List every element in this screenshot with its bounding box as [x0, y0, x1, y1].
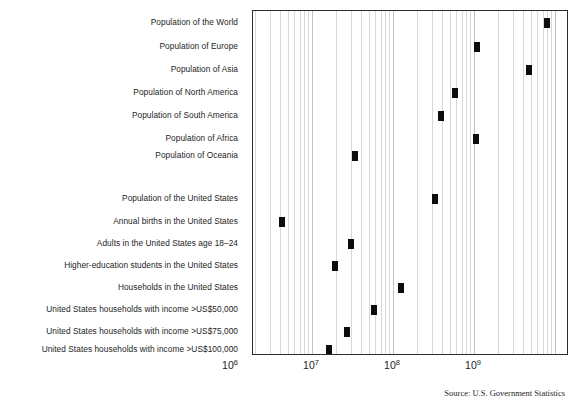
gridline-minor [432, 11, 433, 354]
data-point-marker [344, 327, 350, 337]
gridline-minor [389, 11, 390, 354]
x-tick-base: 10 [303, 359, 315, 371]
gridline-minor [450, 11, 451, 354]
x-tick-exponent: 7 [315, 358, 319, 367]
plot-area [252, 10, 568, 355]
log-scatter-chart: Population of the WorldPopulation of Eur… [0, 0, 571, 409]
gridline-minor [255, 11, 256, 354]
category-label-column: Population of the WorldPopulation of Eur… [0, 0, 244, 360]
category-label: United States households with income >US… [46, 326, 238, 336]
data-point-marker [371, 305, 377, 315]
gridline-minor [442, 11, 443, 354]
category-label: Population of the World [151, 17, 238, 27]
gridline-minor [498, 11, 499, 354]
x-tick-base: 10 [465, 359, 477, 371]
gridline-minor [470, 11, 471, 354]
x-tick-exponent: 6 [234, 358, 238, 367]
gridline-major [555, 11, 556, 354]
x-axis-tick-label: 109 [465, 359, 481, 371]
gridline-major [474, 11, 475, 354]
x-axis-tick-label: 108 [384, 359, 400, 371]
data-point-marker [526, 65, 532, 75]
gridline-minor [462, 11, 463, 354]
category-label: Population of the United States [122, 193, 238, 203]
gridline-minor [381, 11, 382, 354]
gridline-minor [369, 11, 370, 354]
data-point-marker [473, 134, 479, 144]
gridline-minor [523, 11, 524, 354]
x-tick-base: 10 [222, 359, 234, 371]
data-point-marker [348, 239, 354, 249]
gridline-minor [351, 11, 352, 354]
category-label: Households in the United States [118, 282, 238, 292]
data-point-marker [452, 88, 458, 98]
gridline-minor [417, 11, 418, 354]
category-label: Population of North America [133, 87, 238, 97]
x-tick-exponent: 9 [477, 358, 481, 367]
data-point-marker [352, 151, 358, 161]
data-point-marker [438, 111, 444, 121]
gridline-minor [385, 11, 386, 354]
data-point-marker [544, 18, 550, 28]
gridline-minor [456, 11, 457, 354]
gridline-minor [304, 11, 305, 354]
gridline-major [393, 11, 394, 354]
x-axis-tick-label: 106 [222, 359, 238, 371]
x-axis: 106107108109 [252, 356, 568, 378]
gridline-minor [280, 11, 281, 354]
gridline-minor [513, 11, 514, 354]
gridline-minor [531, 11, 532, 354]
x-axis-tick-label: 107 [303, 359, 319, 371]
gridline-minor [336, 11, 337, 354]
gridline-minor [308, 11, 309, 354]
category-label: Adults in the United States age 18–24 [97, 238, 238, 248]
gridline-minor [270, 11, 271, 354]
category-label: Population of Oceania [155, 150, 238, 160]
data-point-marker [474, 42, 480, 52]
category-label: Population of South America [132, 110, 238, 120]
category-label: United States households with income >US… [46, 304, 238, 314]
data-point-marker [398, 283, 404, 293]
category-label: Higher-education students in the United … [64, 260, 238, 270]
gridline-minor [288, 11, 289, 354]
category-label: Population of Europe [160, 41, 239, 51]
category-label: Population of Africa [166, 133, 239, 143]
gridline-minor [361, 11, 362, 354]
data-point-marker [326, 345, 332, 355]
category-label: Population of Asia [171, 64, 238, 74]
gridline-minor [551, 11, 552, 354]
gridline-minor [543, 11, 544, 354]
category-label: Annual births in the United States [113, 216, 238, 226]
gridline-minor [375, 11, 376, 354]
source-note: Source: U.S. Government Statistics [444, 388, 565, 398]
x-tick-exponent: 8 [396, 358, 400, 367]
data-point-marker [332, 261, 338, 271]
gridline-minor [300, 11, 301, 354]
gridline-major [312, 11, 313, 354]
x-tick-base: 10 [384, 359, 396, 371]
gridline-minor [537, 11, 538, 354]
gridline-minor [466, 11, 467, 354]
gridline-minor [294, 11, 295, 354]
category-label: United States households with income >US… [42, 344, 238, 354]
data-point-marker [432, 194, 438, 204]
gridline-minor [547, 11, 548, 354]
data-point-marker [279, 217, 285, 227]
